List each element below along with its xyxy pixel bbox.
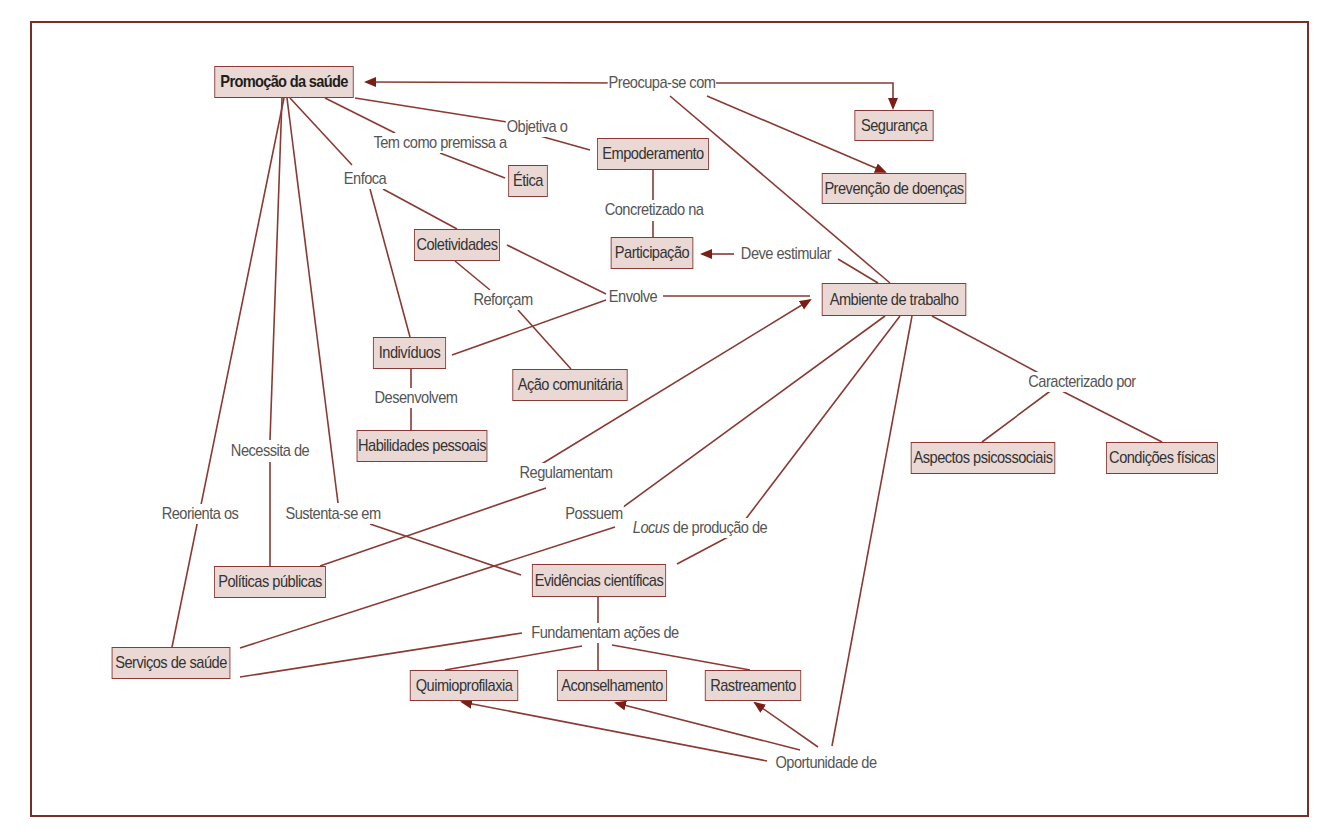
line-connector (540, 136, 590, 150)
arrow-connector (705, 83, 893, 108)
concept-node-acao: Ação comunitária (512, 369, 627, 401)
link-label-text: Sustenta-se em (285, 504, 380, 523)
concept-node-aspectos: Aspectos psicossociais (911, 442, 1055, 474)
link-label-enfoca: Enfoca (343, 169, 387, 189)
link-label-text: Reorienta os (162, 504, 239, 523)
concept-node-ambiente: Ambiente de trabalho (822, 283, 966, 316)
line-connector (270, 98, 282, 440)
line-connector (982, 389, 1053, 442)
line-connector (370, 524, 521, 575)
link-label-text: Objetiva o (507, 117, 568, 136)
link-label-caracterizado: Caracterizado por (1027, 372, 1136, 392)
concept-node-coletividades: Coletividades (414, 229, 500, 261)
line-connector (612, 645, 750, 670)
link-label-premissa: Tem como premissa a (373, 133, 508, 153)
link-label-possuem: Possuem (564, 504, 623, 524)
concept-node-aconselhamento: Aconselhamento (557, 670, 667, 701)
link-label-reorienta: Reorienta os (161, 504, 239, 524)
link-label-text: Preocupa-se com (609, 73, 716, 92)
line-connector (518, 310, 571, 369)
line-connector (677, 537, 728, 564)
concept-node-quimio: Quimioprofilaxia (410, 670, 518, 701)
link-label-preocupa: Preocupa-se com (608, 73, 717, 93)
concept-node-seguranca: Segurança (854, 110, 933, 141)
line-connector (370, 189, 410, 337)
line-connector (832, 316, 912, 746)
link-label-concretizado: Concretizado na (604, 200, 704, 220)
link-label-necessita: Necessita de (230, 441, 310, 461)
concept-node-condicoes: Condições físicas (1106, 442, 1218, 474)
line-connector (440, 153, 505, 178)
line-connector (355, 98, 507, 122)
line-connector (932, 316, 1048, 378)
link-label-regulamentam: Regulamentam (519, 463, 614, 483)
line-connector (172, 98, 284, 647)
link-label-text: Possuem (565, 504, 622, 523)
line-connector (445, 646, 582, 670)
link-label-text: Deve estimular (741, 244, 831, 263)
line-connector (838, 259, 878, 283)
link-label-text: Tem como premissa a (373, 133, 506, 152)
line-connector (455, 261, 490, 290)
link-label-reforcam: Reforçam (473, 290, 534, 310)
concept-node-habilidades: Habilidades pessoais (357, 430, 488, 462)
link-label-text: Oportunidade de (775, 753, 876, 772)
concept-node-etica: Ética (508, 165, 548, 197)
link-label-text: de produção de (669, 518, 767, 537)
arrow-connector (366, 82, 620, 83)
link-label-text: Envolve (609, 287, 657, 306)
concept-node-prevencao: Prevenção de doenças (822, 173, 966, 204)
link-label-fundamentam: Fundamentam ações de (530, 623, 679, 643)
arrow-connector (616, 703, 800, 750)
line-connector (290, 98, 352, 165)
link-label-estimular: Deve estimular (740, 244, 832, 264)
concept-node-rastreamento: Rastreamento (705, 670, 801, 701)
link-label-text: Concretizado na (605, 200, 704, 219)
link-label-italic-part: Locus (633, 518, 669, 537)
link-label-text: Necessita de (231, 441, 309, 460)
link-label-text: Caracterizado por (1028, 372, 1135, 391)
concept-node-promocao: Promoção da saúde (214, 66, 353, 98)
arrow-connector (462, 702, 767, 761)
concept-map-edges (0, 0, 1335, 836)
link-label-envolve: Envolve (608, 287, 658, 307)
concept-node-politicas: Políticas públicas (214, 566, 326, 598)
link-label-text: Fundamentam ações de (531, 623, 678, 642)
link-label-sustenta: Sustenta-se em (285, 504, 382, 524)
link-label-objetiva: Objetiva o (506, 117, 568, 137)
line-connector (507, 245, 606, 294)
link-label-desenvolvem: Desenvolvem (374, 388, 459, 408)
link-label-text: Reforçam (473, 290, 532, 309)
link-label-text: Desenvolvem (375, 388, 458, 407)
concept-node-evidencias: Evidências científicas (532, 564, 666, 597)
link-label-text: Regulamentam (520, 463, 613, 482)
line-connector (383, 189, 457, 229)
concept-node-empoderamento: Empoderamento (597, 138, 709, 170)
concept-node-individuos: Indivíduos (373, 337, 446, 369)
concept-node-servicos: Serviços de saúde (112, 647, 231, 679)
concept-node-participacao: Participação (611, 237, 694, 269)
edges-layer (172, 82, 1162, 761)
link-label-text: Enfoca (344, 169, 386, 188)
line-connector (1058, 389, 1162, 442)
line-connector (320, 488, 546, 566)
line-connector (615, 316, 885, 513)
line-connector (745, 316, 900, 520)
link-label-locus: Locus de produção de (632, 518, 768, 538)
link-label-oportunidade: Oportunidade de (775, 753, 878, 773)
